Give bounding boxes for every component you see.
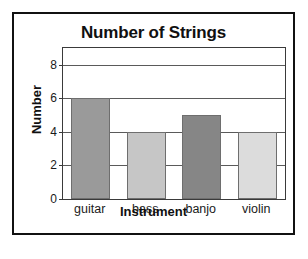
y-tick-label: 4 [50, 125, 57, 139]
y-axis-title: Number [29, 80, 44, 140]
x-axis-title: Instrument [14, 204, 293, 219]
y-tick-label: 8 [50, 58, 57, 72]
y-tick-label: 6 [50, 91, 57, 105]
x-axis-ticks: guitarbassbanjoviolin [62, 14, 286, 233]
chart-figure: Number of Strings Number 02468 guitarbas… [12, 12, 295, 235]
y-tick-label: 2 [50, 158, 57, 172]
